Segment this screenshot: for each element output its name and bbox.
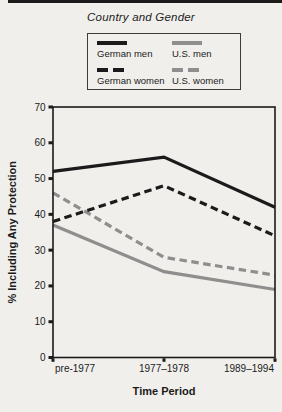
- y-tick-label: 10: [34, 316, 46, 327]
- plot-frame: [53, 107, 275, 358]
- y-tick-label: 30: [34, 245, 46, 256]
- y-tick: [49, 284, 54, 287]
- x-axis-title: Time Period: [133, 385, 196, 397]
- y-axis-title: % Including Any Protection: [6, 161, 18, 304]
- y-tick: [49, 213, 54, 216]
- y-tick-label: 60: [34, 137, 46, 148]
- x-tick: [163, 358, 166, 362]
- y-tick: [49, 106, 54, 109]
- y-tick: [49, 141, 54, 144]
- series-u-s-women: [53, 193, 275, 275]
- y-tick-label: 20: [34, 280, 46, 291]
- line-chart: 010203040506070pre-19771977–19781989–199…: [0, 0, 282, 412]
- y-tick-label: 40: [34, 209, 46, 220]
- x-tick-label: 1977–1978: [139, 363, 189, 374]
- x-tick-label: pre-1977: [55, 363, 95, 374]
- y-tick: [49, 249, 54, 252]
- figure: Country and Gender German men U.S. men G…: [0, 0, 282, 412]
- x-tick: [52, 358, 55, 362]
- y-tick-label: 70: [34, 102, 46, 113]
- x-tick: [274, 358, 277, 362]
- y-tick: [49, 177, 54, 180]
- series-german-men: [53, 157, 275, 207]
- y-tick-label: 50: [34, 173, 46, 184]
- y-tick: [49, 320, 54, 323]
- series-u-s-men: [53, 225, 275, 289]
- y-tick-label: 0: [40, 352, 46, 363]
- x-tick-label: 1989–1994: [224, 363, 274, 374]
